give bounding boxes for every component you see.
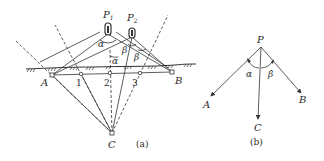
- line-a-c: [52, 75, 112, 133]
- caption-a: (a): [136, 139, 148, 149]
- label-alpha: α: [246, 69, 252, 79]
- label-2: 2: [104, 78, 110, 88]
- label-b: B: [174, 75, 182, 86]
- caption-b: (b): [250, 137, 263, 147]
- label-1: 1: [76, 78, 82, 88]
- marker-3: [138, 71, 142, 75]
- vector-p-c: [258, 47, 261, 119]
- label-alpha-mid: α: [112, 56, 118, 66]
- label-a: A: [202, 99, 210, 110]
- label-beta-right: β: [133, 52, 139, 62]
- pole-p1-inner: [107, 26, 109, 33]
- label-a: A: [40, 77, 48, 88]
- diagram-canvas: P1 P2 α α β β A 1 2 3 B C (a) P α β A B …: [0, 0, 324, 161]
- label-p: P: [256, 34, 264, 45]
- label-beta: β: [267, 69, 273, 79]
- marker-2: [108, 71, 112, 75]
- label-beta-left: β: [121, 45, 127, 55]
- label-3: 3: [132, 78, 138, 88]
- pole-p2-inner: [131, 30, 133, 36]
- marker-a: [50, 73, 54, 77]
- vector-p-b: [261, 47, 301, 93]
- label-alpha-top: α: [98, 39, 104, 49]
- marker-b: [170, 70, 174, 74]
- label-b: B: [298, 94, 306, 105]
- figure-a: P1 P2 α α β β A 1 2 3 B C (a): [15, 9, 196, 150]
- figure-b: P α β A B C (b): [202, 34, 306, 147]
- label-p2: P2: [126, 12, 138, 24]
- marker-c: [110, 131, 114, 135]
- vector-p-a: [211, 47, 261, 96]
- label-c: C: [108, 139, 116, 150]
- beta-arc-left: [128, 44, 136, 46]
- marker-1: [79, 72, 83, 76]
- label-p1: P1: [102, 9, 114, 21]
- line-p1-left: [40, 32, 100, 62]
- label-c: C: [254, 122, 262, 133]
